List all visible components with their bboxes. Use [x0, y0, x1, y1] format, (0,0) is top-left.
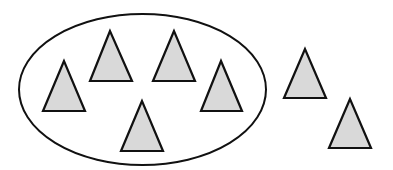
triangle-inside-3 [153, 31, 195, 81]
triangle-inside-2 [90, 31, 132, 81]
set-diagram [0, 0, 393, 170]
triangle-outside-1 [284, 49, 326, 98]
triangle-outside-2 [329, 99, 371, 148]
triangles-group [43, 31, 371, 151]
triangle-inside-4 [201, 61, 242, 111]
triangle-inside-1 [43, 61, 85, 111]
triangle-inside-5 [121, 101, 163, 151]
